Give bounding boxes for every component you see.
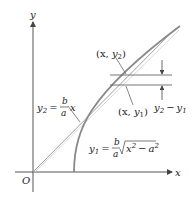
svg-text:y1=: y1= — [88, 143, 110, 156]
svg-text:b: b — [62, 96, 68, 106]
origin-label: O — [22, 175, 30, 186]
lower-point-leader — [126, 86, 133, 105]
svg-text:b: b — [114, 137, 120, 147]
difference-label: y2−y1 — [153, 102, 187, 115]
hyperbola-equation: y1= b a x2−a2 — [88, 137, 159, 159]
svg-text:a: a — [61, 108, 66, 118]
lower-point-label: (x, y1) — [118, 106, 148, 119]
x-axis-label: x — [175, 167, 181, 178]
svg-text:x: x — [70, 102, 76, 113]
y-axis-label: y — [29, 9, 36, 20]
upper-point-label: (x, y2) — [96, 48, 126, 61]
hyperbola-asymptote-diagram: x y O (x, y2) (x, y1) y2−y1 y2= b a x y1… — [0, 0, 195, 204]
svg-text:a: a — [113, 149, 118, 159]
svg-text:y2=: y2= — [36, 102, 58, 115]
svg-text:x2−a2: x2−a2 — [126, 142, 159, 154]
asymptote-equation: y2= b a x — [36, 96, 76, 118]
